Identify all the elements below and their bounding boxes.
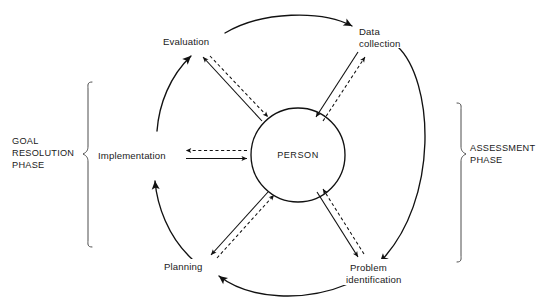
spoke-data-collection-solid	[316, 52, 358, 117]
node-label-data-collection-line2: collection	[359, 38, 401, 49]
arc-data-collection-to-problem-identification	[380, 46, 425, 262]
phase-assessment: ASSESSMENT PHASE	[457, 103, 535, 262]
spoke-arrows	[186, 52, 365, 258]
arc-problem-identification-to-planning	[219, 276, 348, 296]
spoke-planning-dashed	[217, 195, 274, 258]
spoke-data-collection-dashed	[323, 57, 365, 121]
cycle-diagram: PERSON Evaluation Data collection Proble…	[0, 0, 552, 308]
node-problem-identification: Problem identification	[344, 259, 420, 285]
phase-goal-resolution: GOAL RESOLUTION PHASE	[12, 82, 92, 247]
spoke-planning-solid	[211, 192, 268, 255]
node-evaluation: Evaluation	[160, 34, 224, 48]
assessment-label-line1: ASSESSMENT	[470, 143, 535, 153]
spoke-evaluation-solid	[203, 57, 262, 121]
node-implementation: Implementation	[96, 148, 182, 163]
arc-implementation-to-evaluation	[157, 56, 191, 131]
node-label-problem-identification-line1: Problem	[350, 262, 387, 273]
spoke-problem-identification-dashed	[323, 189, 364, 254]
spoke-problem-identification-solid	[317, 192, 358, 257]
arc-evaluation-to-data-collection	[225, 15, 352, 33]
goal-resolution-label-line1: GOAL	[12, 136, 39, 146]
spoke-evaluation-dashed	[210, 56, 268, 117]
node-planning: Planning	[161, 259, 215, 273]
assessment-label-line2: PHASE	[470, 155, 502, 165]
goal-resolution-bracket	[83, 82, 92, 247]
node-label-data-collection-line1: Data	[359, 26, 380, 37]
node-label-problem-identification-line2: identification	[346, 274, 401, 285]
node-data-collection: Data collection	[356, 22, 414, 49]
node-label-implementation: Implementation	[98, 150, 166, 161]
node-label-evaluation: Evaluation	[163, 36, 209, 47]
goal-resolution-label-line2: RESOLUTION	[12, 148, 74, 158]
arc-planning-to-implementation	[155, 181, 192, 259]
goal-resolution-label-line3: PHASE	[12, 160, 44, 170]
assessment-bracket	[457, 103, 466, 262]
person-label: PERSON	[277, 150, 319, 160]
diagram-canvas: PERSON Evaluation Data collection Proble…	[0, 0, 552, 308]
node-label-planning: Planning	[164, 261, 203, 272]
